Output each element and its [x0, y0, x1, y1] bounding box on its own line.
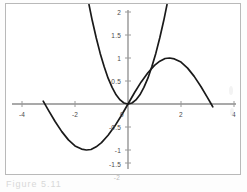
figure-container: -4 -2 0 2 4 2 1.5 1 0.5 -0.5 -1 -1.5 -2 …: [0, 0, 247, 192]
scan-artifact: [229, 86, 233, 95]
y-tick-label-neg1p5: -1.5: [104, 161, 121, 168]
figure-caption: Figure 5.11: [6, 179, 62, 189]
scan-artifact: [230, 108, 234, 116]
x-tick-label-zero: 0: [120, 111, 124, 118]
y-tick-label-1p5: 1.5: [104, 32, 121, 39]
plot-canvas: [6, 4, 240, 174]
y-tick-label-neg2: -2: [103, 174, 120, 181]
x-tick-label-neg2: -2: [72, 111, 78, 118]
y-tick-label-neg1: -1: [104, 147, 121, 154]
y-tick-label-1: 1: [104, 55, 121, 62]
x-tick-label-2: 2: [179, 111, 183, 118]
y-tick-label-0p5: 0.5: [104, 78, 121, 85]
y-tick-label-2: 2: [104, 9, 121, 16]
x-tick-label-neg4: -4: [19, 111, 25, 118]
plot-frame: -4 -2 0 2 4 2 1.5 1 0.5 -0.5 -1 -1.5: [5, 3, 241, 175]
y-tick-label-neg0p5: -0.5: [104, 124, 121, 131]
